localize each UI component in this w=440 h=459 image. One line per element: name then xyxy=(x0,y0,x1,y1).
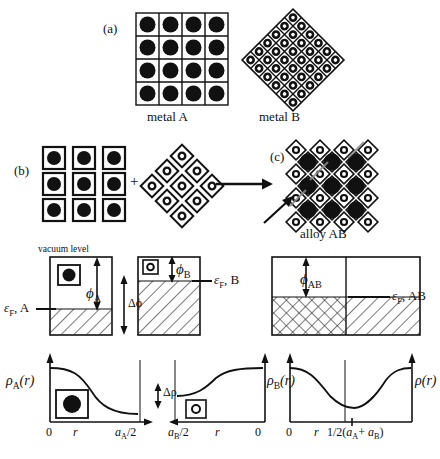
rho-a-subscript: A xyxy=(13,381,20,391)
axis-mid-pre: 1/2( xyxy=(327,425,346,439)
rho-b-symbol: ρ xyxy=(267,373,274,388)
axis-zero-right: 0 xyxy=(255,426,261,438)
axis-mid-post: ) xyxy=(379,425,383,439)
rho-ab-arg: (r) xyxy=(422,373,437,388)
energy-level-diagram xyxy=(0,255,440,350)
phi-a-label: ϕA xyxy=(86,286,101,304)
metal-b-caption: metal B xyxy=(259,110,300,123)
rho-a-arg: (r) xyxy=(20,373,35,388)
alloy-ab-caption: alloy AB xyxy=(300,227,347,240)
cluster-b-atoms xyxy=(144,148,220,224)
axis-aa-tail: /2 xyxy=(127,425,136,439)
axis-ab-half: aB/2 xyxy=(168,426,189,442)
fermi-ab-label: εF, AB xyxy=(392,289,426,305)
cluster-a-atoms xyxy=(42,146,126,222)
phi-b-subscript: B xyxy=(184,269,191,280)
alloy-ab-lattice xyxy=(288,144,384,230)
delta-phi-label: Δϕ xyxy=(128,297,142,309)
phi-ab-label: ϕAB xyxy=(300,272,322,290)
rho-a-symbol: ρ xyxy=(6,373,13,388)
rho-b-label: ρB(r) xyxy=(267,374,295,391)
axis-mid-plus: + xyxy=(358,425,368,439)
phi-ab-subscript: AB xyxy=(308,279,322,290)
interface-pointer-arrow-icon xyxy=(262,196,296,226)
rho-b-arg: (r) xyxy=(280,373,295,388)
phi-a-subscript: A xyxy=(94,293,101,304)
metal-b-lattice xyxy=(243,10,343,110)
fermi-a-tail: , A xyxy=(14,300,29,315)
axis-aa-half: aA/2 xyxy=(115,426,136,442)
rho-ab-label: ρ(r) xyxy=(415,374,437,388)
axis-r-mid: r xyxy=(215,426,220,438)
figure-root: (a) metal A metal B (b) xyxy=(0,0,440,459)
plus-sign: + xyxy=(130,174,138,189)
fermi-b-tail: , B xyxy=(224,272,239,287)
phi-ab-symbol: ϕ xyxy=(300,271,308,287)
phi-b-symbol: ϕ xyxy=(176,261,184,277)
rho-ab-symbol: ρ xyxy=(415,373,422,388)
reaction-arrow-icon xyxy=(216,176,274,192)
axis-zero-left: 0 xyxy=(46,426,52,438)
panel-b-tag: (b) xyxy=(14,164,29,177)
metal-a-lattice xyxy=(135,12,229,106)
delta-rho-label: Δρ xyxy=(163,386,177,398)
fermi-b-label: εF, B xyxy=(214,273,239,289)
axis-mid-alloy: 1/2(aA+ aB) xyxy=(327,426,383,442)
fermi-a-label: εF, A xyxy=(4,301,29,317)
panel-c-tag: (c) xyxy=(270,150,284,163)
axis-ab-tail: /2 xyxy=(179,425,188,439)
axis-zero-alloy: 0 xyxy=(286,426,292,438)
fermi-ab-tail: , AB xyxy=(402,288,426,303)
rho-a-label: ρA(r) xyxy=(6,374,34,391)
metal-a-caption: metal A xyxy=(147,110,188,123)
panel-a-tag: (a) xyxy=(103,22,117,35)
axis-r-left: r xyxy=(73,426,78,438)
phi-b-label: ϕB xyxy=(176,262,191,280)
phi-a-symbol: ϕ xyxy=(86,285,94,301)
axis-r-alloy: r xyxy=(314,426,319,438)
vacuum-level-label: vacuum level xyxy=(38,245,89,255)
